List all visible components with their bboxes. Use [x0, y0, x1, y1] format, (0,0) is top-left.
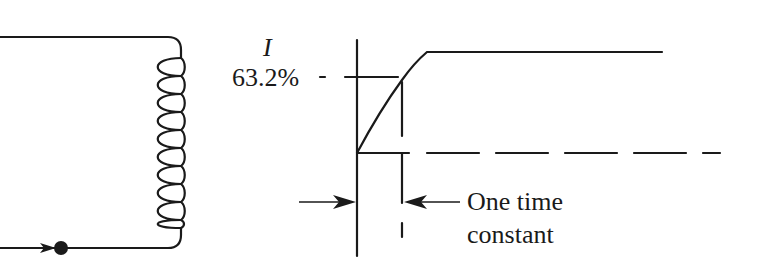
junction-dot [54, 241, 68, 255]
inductor-coil-icon [158, 58, 185, 228]
level-label: 63.2% [232, 63, 299, 93]
diagram-canvas [0, 0, 757, 266]
y-axis-label: I [263, 33, 272, 63]
circuit-top-wire [0, 37, 181, 58]
circuit-bottom-wire [0, 228, 181, 248]
annotation-line1: One time [467, 187, 563, 217]
annotation-line2: constant [467, 220, 554, 250]
